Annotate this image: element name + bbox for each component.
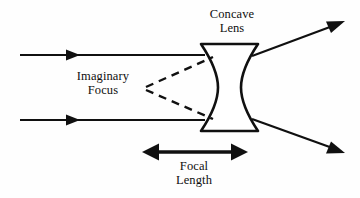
outgoing-ray-bottom (252, 119, 338, 150)
imaginary-focus-label-line2: Focus (66, 84, 140, 98)
outgoing-ray-bottom-arrowhead-icon (326, 142, 345, 154)
virtual-ray-extensions (146, 57, 213, 119)
focal-length-label: Focal Length (158, 160, 230, 187)
concave-lens-label-line2: Lens (196, 22, 268, 36)
incoming-ray-bottom-arrowhead-icon (66, 114, 80, 125)
dashed-ray-bottom (146, 90, 213, 119)
outgoing-ray-top-arrowhead-icon (326, 21, 345, 33)
lens-outline (201, 44, 258, 131)
dashed-ray-top (146, 57, 213, 87)
concave-lens-diagram: Concave Lens Imaginary Focus Focal Lengt… (0, 0, 360, 198)
focal-length-arrow (142, 144, 248, 161)
focal-length-label-line2: Length (158, 174, 230, 188)
concave-lens-label-line1: Concave (196, 8, 268, 22)
imaginary-focus-label-line1: Imaginary (66, 70, 140, 84)
outgoing-rays-group (252, 21, 345, 154)
concave-lens-label: Concave Lens (196, 8, 268, 35)
focal-length-arrowhead-right-icon (231, 144, 248, 161)
incoming-ray-top-arrowhead-icon (66, 49, 80, 60)
imaginary-focus-label: Imaginary Focus (66, 70, 140, 97)
focal-length-arrowhead-left-icon (142, 144, 159, 161)
focal-length-label-line1: Focal (158, 160, 230, 174)
lens-body (201, 44, 258, 131)
